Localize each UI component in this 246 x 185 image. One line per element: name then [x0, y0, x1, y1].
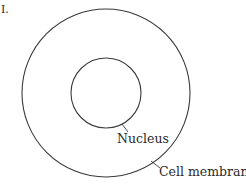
- nucleus-circle: [71, 58, 141, 128]
- figure-number-label: I.: [1, 4, 9, 15]
- nucleus-label: Nucleus: [117, 133, 169, 146]
- cell-membrane-label: Cell membrane: [159, 166, 246, 179]
- cell-membrane-circle: [22, 9, 190, 177]
- cell-diagram: I. Nucleus Cell membrane: [0, 0, 246, 185]
- diagram-svg: [0, 0, 246, 185]
